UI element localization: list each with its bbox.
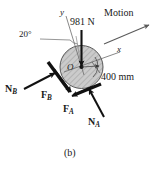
friction-force-b-label: FB [41,90,52,102]
angle-annotation-20deg [40,39,78,44]
center-point-label: O [67,63,74,72]
figure-caption: (b) [64,148,76,158]
normal-force-a-arrow [89,89,104,117]
normal-force-b-subscript: B [12,88,17,96]
normal-force-b-arrow [24,73,55,89]
diameter-label: 400 mm [101,72,134,82]
axis-x-label: x [117,45,121,54]
weight-force-label: 981 N [70,17,95,27]
normal-force-b-label: NB [5,84,17,96]
tilt-angle-label: 20° [19,30,32,39]
normal-force-a-label: NA [88,117,100,129]
normal-force-a-subscript: A [95,121,100,129]
axis-y-label: y [60,8,64,17]
friction-force-a-label: FA [63,104,74,116]
friction-force-b-subscript: B [47,94,52,102]
free-body-diagram: y x 981 N 20° Motion 400 mm O NB FB FA N… [0,0,156,171]
motion-label: Motion [104,8,133,18]
friction-force-a-subscript: A [69,108,74,116]
motion-arrow [104,25,149,44]
